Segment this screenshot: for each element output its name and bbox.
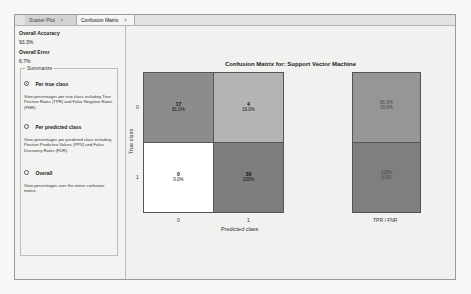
tab-label: Scatter Plot (29, 17, 55, 23)
cell-percent: 0.0% (144, 177, 213, 182)
cell-percent: 19.0% (214, 107, 283, 112)
app-window: Scatter Plot × Confusion Matrix × Overal… (14, 14, 456, 280)
tpr-fnr-label: TPR / FNR (373, 217, 397, 223)
summarize-legend: Summarize (25, 65, 54, 71)
chart-title: Confusion Matrix for: Support Vector Mac… (126, 61, 455, 67)
option-overall[interactable]: Overall View percentages over the entire… (24, 163, 114, 194)
close-icon[interactable]: × (60, 17, 63, 23)
matrix-cell-1-0[interactable]: 0 0.0% (143, 142, 214, 213)
matrix-cell-0-0[interactable]: 17 81.0% (143, 72, 214, 143)
matrix-cell-0-1[interactable]: 4 19.0% (213, 72, 284, 143)
option-per-true-class[interactable]: Per true class View percentages per true… (24, 74, 114, 110)
y-axis-label: True class (128, 129, 134, 154)
overall-error-label: Overall Error (19, 49, 50, 55)
radio-selected-icon[interactable] (24, 81, 29, 86)
fnr-value: 19.0% (353, 105, 420, 110)
option-per-predicted-class[interactable]: Per predicted class View percentages per… (24, 117, 114, 153)
radio-unselected-icon[interactable] (24, 170, 29, 175)
y-tick-1: 1 (136, 174, 139, 180)
option-title: Per true class (35, 81, 68, 87)
close-icon[interactable]: × (124, 17, 127, 23)
x-axis-label: Predicted class (221, 226, 258, 232)
x-tick-1: 1 (247, 217, 250, 223)
y-tick-0: 0 (136, 104, 139, 110)
tab-confusion-matrix[interactable]: Confusion Matrix × (77, 15, 135, 25)
tab-label: Confusion Matrix (81, 17, 119, 23)
matrix-cell-1-1[interactable]: 39 100% (213, 142, 284, 213)
tab-strip: Scatter Plot × Confusion Matrix × (15, 15, 455, 26)
option-title: Overall (35, 170, 52, 176)
plot-area: Confusion Matrix for: Support Vector Mac… (126, 26, 455, 279)
option-description: View percentages per true class includin… (24, 94, 114, 110)
tpr-fnr-cell-0[interactable]: 81.0% 19.0% (352, 72, 421, 143)
radio-unselected-icon[interactable] (24, 124, 29, 129)
overall-error-value: 6.7% (19, 58, 30, 64)
option-title: Per predicted class (35, 124, 81, 130)
summary-panel: Overall Accuracy 93.3% Overall Error 6.7… (15, 26, 126, 279)
tpr-fnr-cell-1[interactable]: 100% 0.0% (352, 142, 421, 213)
overall-accuracy-value: 93.3% (19, 39, 33, 45)
summarize-group: Summarize Per true class View percentage… (20, 68, 118, 256)
option-description: View percentages per predicted class inc… (24, 137, 114, 153)
option-description: View percentages over the entire confusi… (24, 183, 114, 194)
cell-percent: 81.0% (144, 107, 213, 112)
fnr-value: 0.0% (353, 175, 420, 180)
tab-scatter-plot[interactable]: Scatter Plot × (25, 15, 77, 25)
overall-accuracy-label: Overall Accuracy (19, 30, 60, 36)
x-tick-0: 0 (177, 217, 180, 223)
cell-percent: 100% (214, 177, 283, 182)
